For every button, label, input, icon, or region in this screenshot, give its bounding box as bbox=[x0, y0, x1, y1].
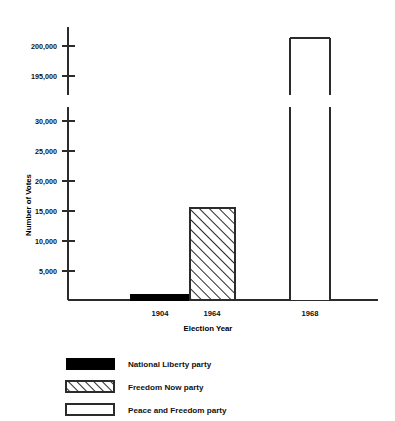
bar-1968-upper bbox=[290, 38, 330, 95]
y-tick-label-195000: 195,000 bbox=[31, 72, 57, 81]
x-tick-label-1964: 1964 bbox=[204, 309, 222, 318]
bar-1968-peace-and-freedom-lower bbox=[290, 107, 330, 300]
chart-legend: National Liberty party Freedom Now party… bbox=[66, 358, 227, 415]
bar-1964-freedom-now bbox=[190, 208, 235, 300]
legend-item-peace-and-freedom: Peace and Freedom party bbox=[66, 404, 227, 415]
bar-1904-national-liberty bbox=[130, 294, 190, 300]
legend-label-freedom-now: Freedom Now party bbox=[128, 383, 204, 392]
y-tick-label-25000: 25,000 bbox=[35, 147, 57, 156]
legend-label-peace-and-freedom: Peace and Freedom party bbox=[128, 406, 227, 415]
y-axis-title: Number of Votes bbox=[24, 173, 33, 235]
y-tick-label-15000: 15,000 bbox=[35, 207, 57, 216]
x-axis-title: Election Year bbox=[184, 324, 233, 333]
y-tick-label-10000: 10,000 bbox=[35, 237, 57, 246]
x-tick-label-1904: 1904 bbox=[152, 309, 170, 318]
legend-item-freedom-now: Freedom Now party bbox=[66, 381, 204, 392]
y-tick-label-5000: 5,000 bbox=[39, 267, 57, 276]
y-tick-label-200000: 200,000 bbox=[31, 42, 57, 51]
legend-label-national-liberty: National Liberty party bbox=[128, 360, 212, 369]
x-tick-label-1968: 1968 bbox=[302, 309, 319, 318]
y-tick-label-30000: 30,000 bbox=[35, 117, 57, 126]
y-tick-label-20000: 20,000 bbox=[35, 177, 57, 186]
legend-swatch-solid-black bbox=[66, 358, 114, 369]
chart-canvas: 200,000 195,000 30,000 25,000 20,000 15,… bbox=[0, 0, 395, 421]
legend-swatch-white-outline bbox=[66, 404, 114, 415]
bar-chart-figure: 200,000 195,000 30,000 25,000 20,000 15,… bbox=[0, 0, 395, 421]
legend-item-national-liberty: National Liberty party bbox=[66, 358, 212, 369]
legend-swatch-diagonal-hatch bbox=[66, 381, 114, 392]
